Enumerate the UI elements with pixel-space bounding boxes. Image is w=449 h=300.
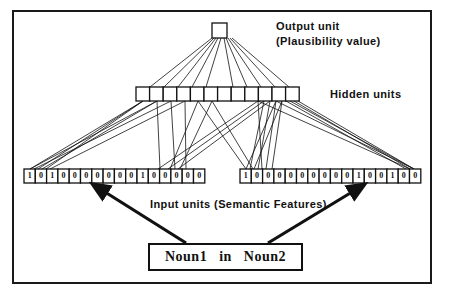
hidden-unit-cell: [136, 87, 150, 101]
output-unit-label-line1: Output unit: [276, 20, 340, 32]
connection-line: [164, 38, 214, 87]
connection-line: [42, 101, 157, 169]
hidden-unit-cell: [163, 87, 177, 101]
connection-line: [170, 101, 198, 169]
input-unit-left-cell-value: 0: [84, 171, 88, 180]
input-unit-right-cell-value: 0: [255, 171, 259, 180]
input-unit-left-cell-value: 0: [62, 171, 66, 180]
hidden-unit-cell: [258, 87, 272, 101]
input-unit-left-cell-value: 1: [141, 171, 145, 180]
input-unit-left-cell-value: 0: [186, 171, 190, 180]
input-unit-right-cell-value: 0: [345, 171, 349, 180]
connection-line: [34, 101, 171, 169]
input-unit-left-cell-value: 0: [197, 171, 201, 180]
hidden-unit-cell: [190, 87, 204, 101]
output-unit-label-line2: (Plausibility value): [276, 35, 381, 47]
connection-line: [212, 101, 253, 169]
hidden-layer: [136, 87, 299, 101]
input-units-label: Input units (Semantic Features): [150, 198, 327, 210]
input-unit-right-cell-value: 0: [368, 171, 372, 180]
connection-line: [30, 101, 143, 169]
input-layer-right: 1000000000100100: [240, 169, 421, 183]
input-unit-left-cell-value: 0: [163, 171, 167, 180]
connections-output-to-hidden: [150, 38, 289, 87]
hidden-unit-cell: [231, 87, 245, 101]
connection-line: [46, 101, 143, 169]
connections-hidden-to-input: [30, 101, 414, 169]
connection-line: [298, 101, 414, 169]
hidden-unit-cell: [218, 87, 232, 101]
input-unit-right-cell-value: 0: [266, 171, 270, 180]
input-unit-right-cell-value: 0: [311, 171, 315, 180]
hidden-unit-cell: [245, 87, 259, 101]
connection-line: [157, 101, 160, 169]
input-unit-left-cell-value: 0: [73, 171, 77, 180]
connection-line: [50, 101, 185, 169]
hidden-unit-cell: [204, 87, 218, 101]
output-layer: [212, 23, 227, 38]
sentence-text: Noun1 in Noun2: [165, 249, 286, 265]
connection-line: [250, 101, 264, 169]
connection-line: [178, 101, 270, 169]
input-unit-left-cell-value: 1: [28, 171, 32, 180]
connection-line: [206, 38, 221, 87]
input-unit-left-cell-value: 0: [39, 171, 43, 180]
output-unit-cell: [212, 23, 227, 38]
connection-line: [294, 101, 410, 169]
input-unit-right-cell-value: 0: [289, 171, 293, 180]
input-unit-right-cell-value: 1: [244, 171, 248, 180]
connection-line: [198, 101, 246, 169]
input-unit-left-cell-value: 0: [95, 171, 99, 180]
connection-line: [150, 38, 212, 87]
input-unit-left-cell-value: 0: [107, 171, 111, 180]
connection-line: [30, 101, 157, 169]
input-unit-right-cell-value: 0: [379, 171, 383, 180]
input-unit-right-cell-value: 1: [357, 171, 361, 180]
figure-root: 1010000000100000 1000000000100100 Output…: [0, 0, 449, 300]
input-unit-left-cell-value: 0: [175, 171, 179, 180]
connection-line: [178, 38, 216, 87]
input-unit-right-cell-value: 1: [391, 171, 395, 180]
connection-line: [266, 101, 276, 169]
input-unit-right-cell-value: 0: [278, 171, 282, 180]
hidden-unit-cell: [150, 87, 164, 101]
input-unit-right-cell-value: 0: [402, 171, 406, 180]
connection-line: [168, 101, 264, 169]
hidden-unit-cell: [177, 87, 191, 101]
input-unit-left-cell-value: 1: [50, 171, 54, 180]
hidden-unit-cell: [272, 87, 286, 101]
input-layer-left: 1010000000100000: [24, 169, 205, 183]
connection-line: [224, 38, 233, 87]
input-unit-left-cell-value: 0: [118, 171, 122, 180]
sentence-box: Noun1 in Noun2: [148, 243, 303, 271]
input-unit-right-cell-value: 0: [300, 171, 304, 180]
hidden-units-label: Hidden units: [330, 88, 401, 100]
connection-line: [228, 38, 261, 87]
input-unit-left-cell-value: 0: [129, 171, 133, 180]
connection-line: [192, 38, 218, 87]
input-unit-right-cell-value: 0: [334, 171, 338, 180]
input-unit-right-cell-value: 0: [413, 171, 417, 180]
input-unit-left-cell-value: 0: [152, 171, 156, 180]
connection-line: [258, 101, 410, 169]
hidden-unit-cell: [286, 87, 300, 101]
input-unit-right-cell-value: 0: [323, 171, 327, 180]
